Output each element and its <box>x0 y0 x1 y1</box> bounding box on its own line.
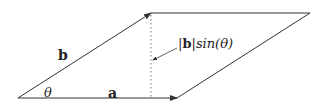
label-a: a <box>108 86 117 100</box>
label-theta: θ <box>44 86 52 99</box>
height-label-pointer <box>153 48 177 60</box>
parallelogram-diagram: b a θ |b|sin(θ) <box>0 0 322 110</box>
right-edge <box>177 13 310 98</box>
label-b: b <box>58 48 68 62</box>
label-height: |b|sin(θ) <box>178 37 233 50</box>
sin-theta: sin(θ) <box>196 36 233 51</box>
vector-b-arrow <box>18 13 151 98</box>
